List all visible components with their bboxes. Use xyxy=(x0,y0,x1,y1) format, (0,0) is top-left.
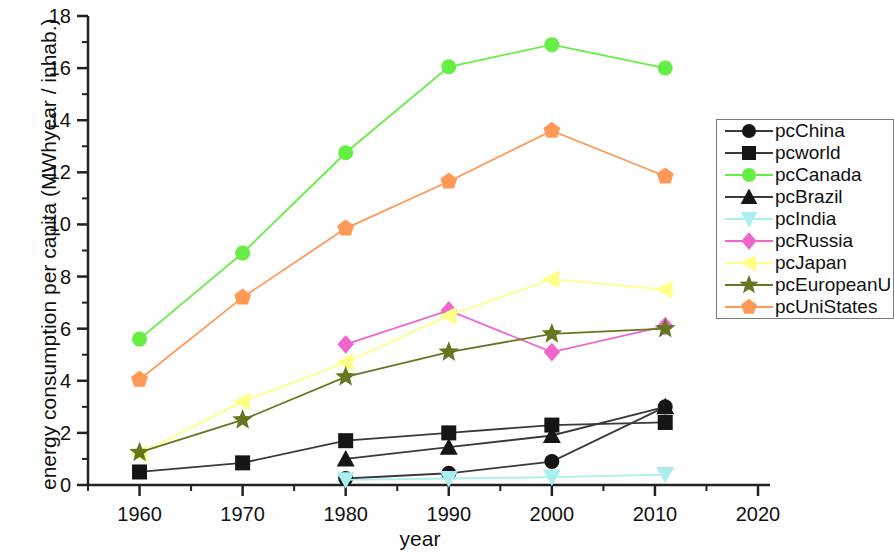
y-axis-label: energy consumption per capita (MWhyear /… xyxy=(37,20,61,490)
legend-label: pcIndia xyxy=(775,209,836,229)
series-pcEuropeanU xyxy=(129,318,675,461)
x-tick-label: 1980 xyxy=(323,503,368,525)
legend-marker-star-icon xyxy=(723,275,775,295)
legend-item-pcCanada[interactable]: pcCanada xyxy=(717,164,893,186)
legend-marker-diamond-icon xyxy=(723,231,775,251)
legend-item-pcIndia[interactable]: pcIndia xyxy=(717,208,893,230)
series-pcCanada xyxy=(132,37,673,346)
legend-marker-circle-icon xyxy=(723,165,775,185)
x-tick-label: 2000 xyxy=(530,503,575,525)
y-tick-label: 0 xyxy=(60,474,71,496)
x-tick-label: 2020 xyxy=(736,503,781,525)
series-pcBrazil xyxy=(337,398,675,467)
legend-item-pcRussia[interactable]: pcRussia xyxy=(717,230,893,252)
legend-label: pcRussia xyxy=(775,231,853,251)
legend-label: pcBrazil xyxy=(775,187,843,207)
legend-label: pcUniStates xyxy=(775,297,877,317)
legend-label: pcJapan xyxy=(775,253,847,273)
legend-label: pcworld xyxy=(775,143,840,163)
legend-marker-triangle-up-icon xyxy=(723,187,775,207)
legend-item-pcworld[interactable]: pcworld xyxy=(717,142,893,164)
legend-item-pcEuropeanU[interactable]: pcEuropeanU xyxy=(717,274,893,296)
legend-marker-triangle-left-icon xyxy=(723,253,775,273)
series-pcJapan xyxy=(130,270,673,463)
legend-label: pcChina xyxy=(775,121,845,141)
legend-marker-square-icon xyxy=(723,143,775,163)
y-tick-label: 2 xyxy=(60,422,71,444)
legend-marker-circle-icon xyxy=(723,121,775,141)
x-tick-label: 1960 xyxy=(117,503,162,525)
x-axis-label: year xyxy=(300,527,540,551)
y-tick-label: 4 xyxy=(60,370,71,392)
legend-marker-pentagon-icon xyxy=(723,297,775,317)
y-tick-label: 8 xyxy=(60,266,71,288)
legend-item-pcChina[interactable]: pcChina xyxy=(717,120,893,142)
legend-label: pcEuropeanU xyxy=(775,275,891,295)
legend-item-pcJapan[interactable]: pcJapan xyxy=(717,252,893,274)
y-tick-label: 6 xyxy=(60,318,71,340)
x-tick-label: 1990 xyxy=(427,503,472,525)
x-tick-label: 1970 xyxy=(220,503,265,525)
legend-item-pcBrazil[interactable]: pcBrazil xyxy=(717,186,893,208)
series-pcChina xyxy=(338,399,673,486)
legend-label: pcCanada xyxy=(775,165,862,185)
x-tick-label: 2010 xyxy=(633,503,678,525)
legend-item-pcUniStates[interactable]: pcUniStates xyxy=(717,296,893,318)
series-pcUniStates xyxy=(131,122,674,387)
chart-legend: pcChinapcworldpcCanadapcBrazilpcIndiapcR… xyxy=(716,119,894,319)
legend-marker-triangle-down-icon xyxy=(723,209,775,229)
